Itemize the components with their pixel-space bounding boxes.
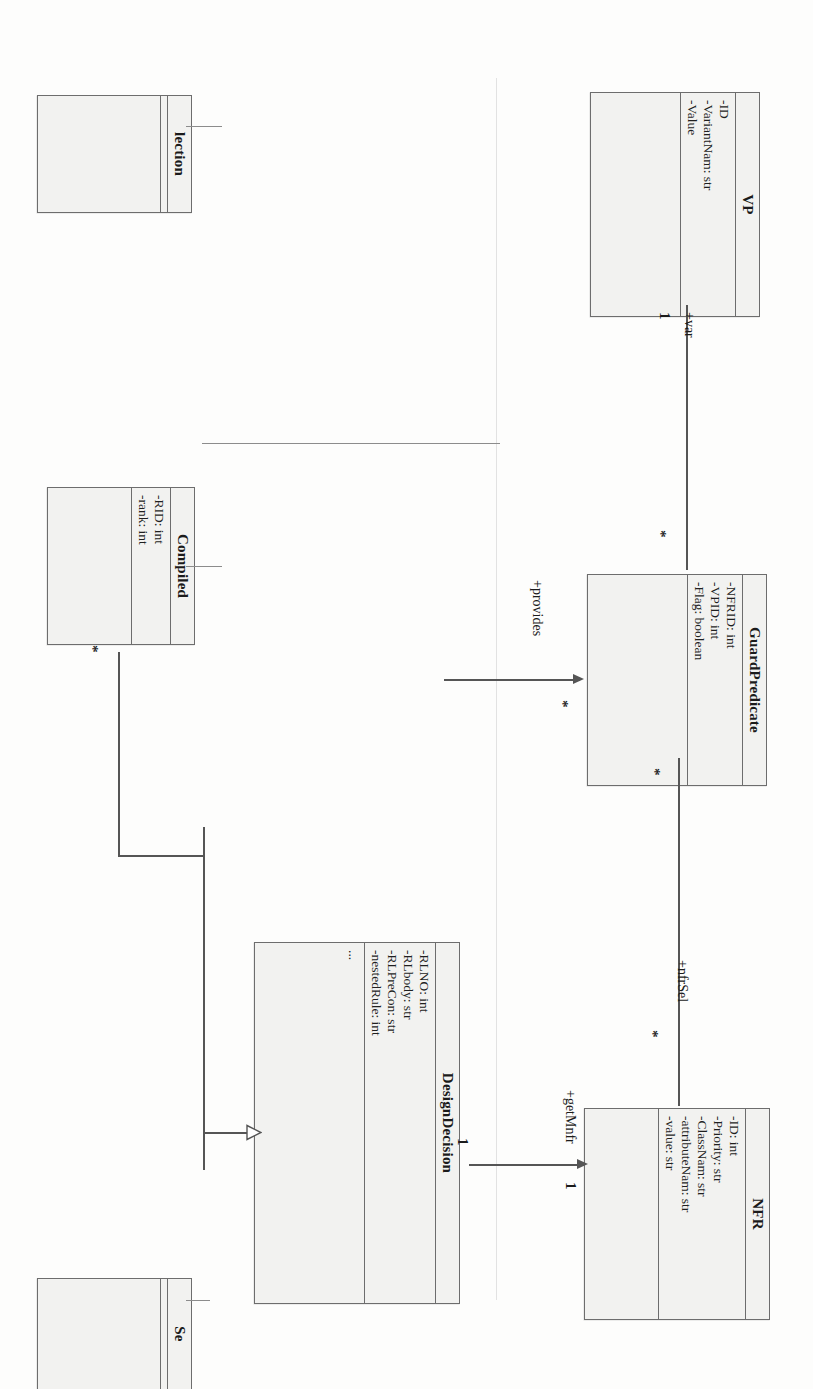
attribute-row: -value: str [662, 1116, 678, 1312]
association-role-nfrsel: +nfrSel [674, 960, 690, 1002]
multiplicity-compiled-star: * [85, 645, 100, 653]
page-rule-line [496, 78, 497, 1300]
class-name-designdecision: DesignDecision [435, 943, 459, 1303]
class-operations-partial-se [38, 1279, 160, 1389]
multiplicity-provides-star: * [555, 700, 570, 708]
attribute-row: -Priority: str [710, 1116, 726, 1312]
class-attributes-designdecision: -RLNO: int -RLbody: str -RLPreCon: str -… [364, 943, 435, 1303]
attribute-row: -Value [684, 100, 700, 309]
generalization-segment-horizontal-1 [118, 855, 204, 857]
class-attributes-compiled: -RID: int -rank: int [131, 488, 170, 644]
class-attributes-guardpredicate: -NFRID: int -VPID: int -Flag: boolean [687, 575, 742, 785]
association-line-vp-guardpredicate [686, 305, 688, 570]
class-box-partial-se[interactable]: Se [37, 1278, 192, 1389]
attribute-row: -RID: int [151, 495, 167, 637]
association-line-designdecision-guardpredicate [444, 679, 580, 681]
association-line-guardpredicate-nfr [678, 758, 680, 1106]
multiplicity-nfrsel-star: * [645, 1030, 660, 1038]
attribute-row: -VariantNam: str [700, 100, 716, 309]
class-box-nfr[interactable]: NFR -ID: int -Priority: str -ClassNam: s… [584, 1108, 770, 1320]
multiplicity-nfr-one: 1 [563, 1182, 578, 1190]
page-horizontal-rule [202, 443, 500, 444]
class-operations-compiled [48, 488, 131, 644]
attribute-row: -attributeNam: str [678, 1116, 694, 1312]
association-line-designdecision-nfr [469, 1164, 584, 1166]
association-role-provides: +provides [529, 580, 545, 636]
connector-stub-partial-se [186, 1300, 210, 1301]
attribute-row: -VPID: int [707, 582, 723, 778]
attribute-row: -nestedRule: int [368, 950, 384, 1296]
association-role-getmnfr: +getMnfr [562, 1090, 578, 1144]
association-role-var: +var [681, 312, 697, 338]
class-operations-designdecision: ... [255, 943, 364, 1303]
attribute-row: -rank: int [135, 495, 151, 637]
multiplicity-guardpredicate-bottom-star: * [647, 768, 662, 776]
class-box-compiled[interactable]: Compiled -RID: int -rank: int [47, 487, 195, 645]
class-attributes-partial-lection [160, 96, 167, 212]
class-attributes-nfr: -ID: int -Priority: str -ClassNam: str -… [658, 1109, 745, 1319]
multiplicity-guardpredicate-top-star: * [653, 530, 668, 538]
attribute-row: -Flag: boolean [691, 582, 707, 778]
class-name-nfr: NFR [745, 1109, 769, 1319]
class-attributes-partial-se [160, 1279, 167, 1389]
arrowhead-provides-icon [573, 674, 584, 684]
connector-stub-partial-lection [186, 126, 222, 127]
generalization-triangle-icon [246, 1124, 261, 1140]
multiplicity-designdecision-one: 1 [455, 1138, 470, 1146]
uml-class-diagram-canvas: VP -ID -VariantNam: str -Value GuardPred… [0, 0, 813, 1389]
class-box-guardpredicate[interactable]: GuardPredicate -NFRID: int -VPID: int -F… [587, 574, 767, 786]
attribute-row: -NFRID: int [723, 582, 739, 778]
class-box-partial-lection[interactable]: lection [37, 95, 192, 213]
class-operations-nfr [585, 1109, 658, 1319]
class-operations-guardpredicate [588, 575, 687, 785]
multiplicity-vp-one: 1 [657, 312, 672, 320]
class-name-partial-se: Se [167, 1279, 191, 1389]
class-name-guardpredicate: GuardPredicate [742, 575, 766, 785]
attribute-row: -ID: int [726, 1116, 742, 1312]
attribute-row: -RLPreCon: str [384, 950, 400, 1296]
class-operations-vp [591, 93, 680, 316]
class-attributes-vp: -ID -VariantNam: str -Value [680, 93, 735, 316]
connector-stub-compiled [186, 566, 222, 567]
attribute-row: -ClassNam: str [694, 1116, 710, 1312]
class-name-vp: VP [735, 93, 759, 316]
attribute-row: -RLbody: str [400, 950, 416, 1296]
arrowhead-getmnfr-icon [577, 1159, 588, 1169]
attribute-row: -RLNO: int [416, 950, 432, 1296]
class-name-partial-lection: lection [167, 96, 191, 212]
generalization-segment-vertical-compiled [118, 652, 120, 856]
generalization-segment-vertical-mid [203, 827, 205, 1170]
operation-row: ... [345, 950, 361, 1296]
class-box-vp[interactable]: VP -ID -VariantNam: str -Value [590, 92, 760, 317]
attribute-row: -ID [716, 100, 732, 309]
class-box-designdecision[interactable]: DesignDecision -RLNO: int -RLbody: str -… [254, 942, 460, 1304]
class-operations-partial-lection [38, 96, 160, 212]
